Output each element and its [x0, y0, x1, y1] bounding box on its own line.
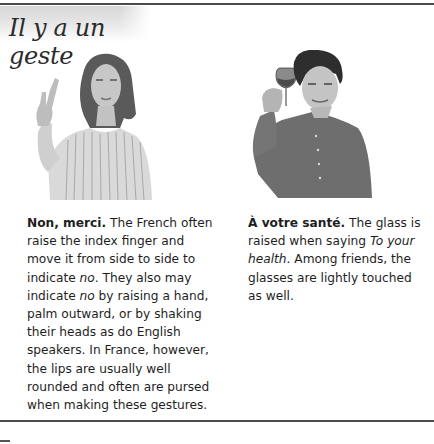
title-band: Il y a un geste: [0, 6, 150, 42]
top-rule: [0, 3, 434, 5]
bottom-rule: [0, 420, 434, 422]
woman-raising-index-finger-photo: [28, 52, 158, 200]
page-corner-mark: [0, 440, 10, 442]
gesture-heading: Non, merci.: [27, 216, 106, 230]
man-raising-wine-glass-photo: [248, 50, 378, 198]
gesture-heading: À votre santé.: [248, 216, 345, 230]
a-votre-sante-description: À votre santé. The glass is raised when …: [248, 214, 428, 305]
non-merci-description: Non, merci. The French often raise the i…: [27, 214, 222, 414]
